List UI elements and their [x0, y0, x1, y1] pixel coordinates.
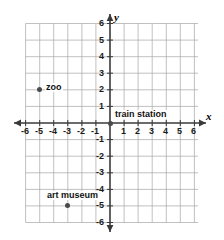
- x-tick-label-pos6: 6: [191, 127, 196, 136]
- y-tick-label-pos1: 1: [99, 102, 104, 111]
- point-label-zoo: zoo: [45, 83, 63, 92]
- point-marker-train-station: [108, 121, 113, 126]
- y-tick-label-neg1: -1: [96, 135, 104, 144]
- x-tick-label-pos4: 4: [163, 127, 168, 136]
- x-tick-label-pos2: 2: [135, 127, 140, 136]
- x-tick-label-neg3: -3: [63, 127, 71, 136]
- y-tick-label-neg3: -3: [96, 168, 104, 177]
- y-tick-label-neg6: -6: [96, 218, 104, 227]
- y-tick-label-neg5: -5: [96, 201, 104, 210]
- coordinate-plane-graph: -6 -5 -4 -3 -2 -1 1 2 3 4 5 6 6 5 4 3 2 …: [0, 0, 224, 240]
- x-tick-label-pos1: 1: [121, 127, 126, 136]
- point-label-train-station: train station: [114, 110, 168, 119]
- x-axis-label: x: [206, 111, 212, 122]
- plot-area: [0, 0, 224, 240]
- x-tick-label-neg5: -5: [35, 127, 43, 136]
- y-tick-label-pos3: 3: [99, 69, 104, 78]
- y-tick-label-pos4: 4: [99, 52, 104, 61]
- point-label-art-museum: art museum: [46, 191, 99, 200]
- x-tick-label-neg2: -2: [77, 127, 85, 136]
- x-tick-label-pos5: 5: [177, 127, 182, 136]
- y-tick-label-pos6: 6: [99, 19, 104, 28]
- x-tick-label-pos3: 3: [149, 127, 154, 136]
- y-tick-label-pos2: 2: [99, 85, 104, 94]
- y-tick-label-pos5: 5: [99, 36, 104, 45]
- x-tick-label-neg4: -4: [49, 127, 57, 136]
- y-tick-label-neg2: -2: [96, 152, 104, 161]
- x-tick-label-neg6: -6: [21, 127, 29, 136]
- y-axis-label: y: [114, 12, 119, 23]
